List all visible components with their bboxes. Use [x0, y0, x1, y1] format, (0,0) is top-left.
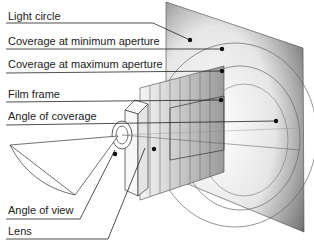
- lens-coverage-diagram: Light circle Coverage at minimum apertur…: [0, 0, 314, 250]
- label-lens: Lens: [8, 225, 32, 237]
- label-coverage-max-aperture: Coverage at maximum aperture: [8, 58, 163, 70]
- label-angle-of-view: Angle of view: [8, 204, 73, 216]
- light-circle-dot: [188, 38, 192, 42]
- label-angle-of-coverage: Angle of coverage: [8, 110, 97, 122]
- label-light-circle: Light circle: [8, 10, 61, 22]
- label-coverage-min-aperture: Coverage at minimum aperture: [8, 35, 160, 47]
- angle-of-view-cone: [10, 136, 118, 195]
- label-film-frame: Film frame: [8, 88, 60, 100]
